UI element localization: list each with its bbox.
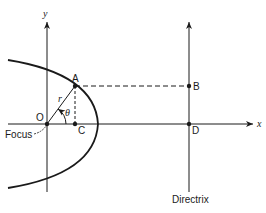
- point-a: [73, 84, 77, 88]
- label-theta: θ: [65, 107, 70, 118]
- label-r: r: [58, 93, 62, 104]
- label-d: D: [192, 125, 199, 136]
- label-a: A: [72, 73, 79, 84]
- label-o: O: [36, 112, 44, 123]
- focus-pointer: [34, 126, 46, 134]
- point-b: [187, 84, 191, 88]
- label-directrix: Directrix: [172, 194, 209, 205]
- point-c: [73, 122, 77, 126]
- point-o: [45, 122, 49, 126]
- label-focus: Focus: [5, 129, 32, 140]
- label-c: C: [78, 125, 85, 136]
- point-d: [187, 122, 191, 126]
- radius-line: [47, 86, 75, 124]
- x-axis-label: x: [256, 118, 262, 129]
- label-b: B: [193, 81, 200, 92]
- parabola-diagram: y x O A B C D r θ Focus Directrix: [0, 0, 266, 213]
- y-axis-label: y: [42, 8, 48, 19]
